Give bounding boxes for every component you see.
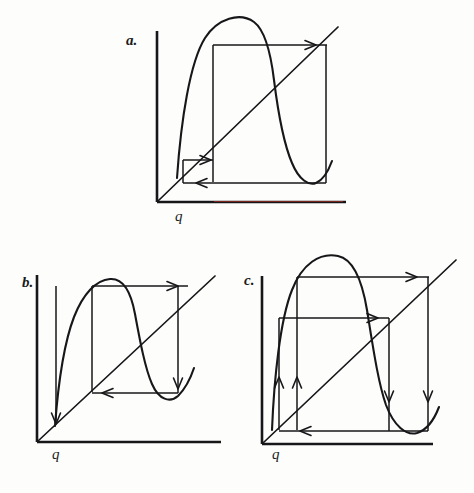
panel-b-x-axis-label: q	[52, 446, 60, 463]
panel-b-label: b.	[22, 274, 33, 291]
panel-a-plot	[0, 0, 474, 245]
panel-a-identity-line	[158, 27, 338, 201]
panel-b-map-curve	[55, 279, 194, 426]
panel-b-identity-line	[38, 276, 215, 441]
panel-a-label: a.	[126, 32, 137, 49]
panel-b-plot	[0, 248, 240, 493]
panel-a-x-axis-label: q	[175, 208, 183, 225]
panel-c-x-axis-label: q	[272, 446, 280, 463]
panel-c-label: c.	[244, 272, 254, 289]
panel-c: c. q	[234, 248, 474, 493]
panel-b: b. q	[0, 248, 240, 493]
panel-c-plot	[234, 248, 474, 493]
figure-canvas: a. q	[0, 0, 474, 493]
panel-a: a. q	[0, 0, 474, 245]
